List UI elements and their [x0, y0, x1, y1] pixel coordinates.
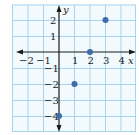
point-2-0 — [87, 49, 93, 55]
y-tick-label: 1 — [50, 31, 56, 42]
y-tick-label: −2 — [44, 79, 59, 90]
point-3-2 — [103, 17, 109, 23]
y-tick-label: −1 — [44, 63, 59, 74]
x-axis-label: x — [128, 55, 134, 66]
y-tick-label: −3 — [44, 95, 59, 106]
point-0-neg4 — [56, 113, 62, 119]
x-tick-label: 4 — [119, 55, 125, 66]
x-tick-label: −2 — [19, 55, 34, 66]
x-tick-label: 2 — [88, 55, 94, 66]
y-tick-label: 2 — [50, 15, 56, 26]
coordinate-plane: y x −2 −1 1 2 3 4 2 1 −1 −2 −3 −4 — [0, 0, 139, 135]
x-tick-label: 3 — [103, 55, 109, 66]
y-axis-label: y — [62, 4, 69, 15]
x-tick-label: 1 — [72, 55, 78, 66]
point-1-neg2 — [72, 81, 78, 87]
